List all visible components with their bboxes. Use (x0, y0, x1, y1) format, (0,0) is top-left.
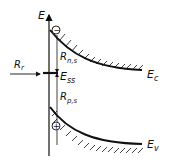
valence-band-curve (50, 107, 143, 153)
conduction-band-label: Ec (147, 68, 159, 83)
svg-text:+: + (53, 122, 60, 131)
band-diagram: E Ec − Rn,s Ess Rr Rp,s (0, 0, 171, 165)
axis-label: E (38, 9, 45, 22)
hole-rate-label: Rp,s (60, 91, 78, 105)
recombination-label: Rr (14, 59, 25, 72)
valence-band-label: Ev (147, 138, 159, 153)
svg-text:−: − (54, 26, 61, 35)
surface-state-label: Ess (60, 70, 75, 85)
conduction-band-curve (50, 30, 143, 70)
